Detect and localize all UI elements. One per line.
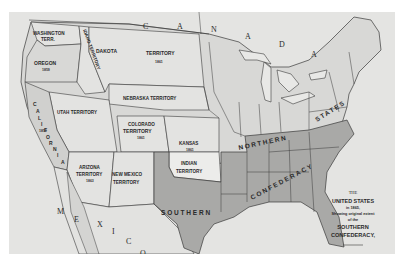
label-colorado: COLORADO: [128, 122, 155, 127]
label-dakota-year: 1861: [155, 60, 163, 64]
title-united-states: UNITED STATES: [332, 198, 374, 204]
label-washington-terr: TERR.: [41, 37, 55, 42]
label-kansas-year: 1861: [186, 148, 194, 152]
label-mexico-e: E: [74, 215, 79, 224]
label-mexico-o: O: [140, 249, 146, 254]
label-arizona-year: 1863: [86, 179, 94, 183]
label-dakota: DAKOTA: [96, 48, 117, 54]
label-mexico-m: M: [57, 207, 64, 216]
svg-text:A: A: [36, 108, 40, 114]
label-canada-a: A: [177, 22, 183, 31]
title-year: in 1865,: [346, 206, 360, 210]
label-mexico-c: C: [126, 237, 131, 246]
label-indian-territory: TERRITORY: [176, 169, 202, 174]
label-indian: INDIAN: [181, 161, 198, 166]
label-canada-c: C: [143, 22, 148, 31]
title-southern: SOUTHERN: [337, 224, 368, 230]
label-new-mexico-territory: TERRITORY: [113, 180, 139, 185]
label-canada-a2: A: [245, 32, 251, 41]
label-nebraska: NEBRASKA TERRITORY: [123, 96, 176, 101]
historical-map: C A N A D A M E X I C O WASHINGTON TERR.…: [9, 12, 395, 254]
svg-text:1850: 1850: [39, 129, 47, 133]
label-mexico-i: I: [112, 227, 115, 236]
label-mexico-x: X: [97, 220, 103, 229]
title-the: THE: [349, 190, 358, 195]
label-southern: SOUTHERN: [161, 209, 212, 216]
label-canada-d: D: [279, 40, 285, 49]
map-canvas: C A N A D A M E X I C O WASHINGTON TERR.…: [9, 12, 395, 254]
label-utah: UTAH TERRITORY: [57, 110, 97, 115]
label-oregon-year: 1859: [42, 68, 50, 72]
label-arizona-territory: TERRITORY: [76, 172, 102, 177]
label-colorado-year: 1861: [137, 136, 145, 140]
title-of-the: of the: [348, 218, 358, 222]
label-colorado-territory: TERRITORY: [123, 128, 152, 134]
label-washington: WASHINGTON: [33, 31, 65, 36]
region-dakota: [89, 27, 204, 92]
title-showing: Showing original extent: [332, 212, 376, 216]
label-canada-n: N: [211, 25, 217, 34]
svg-text:C: C: [33, 101, 37, 107]
title-confederacy: CONFEDERACY,: [331, 232, 376, 238]
label-canada-a3: A: [311, 50, 317, 59]
label-oregon: OREGON: [34, 60, 57, 66]
region-kansas: [164, 116, 219, 152]
label-arizona: ARIZONA: [79, 165, 101, 170]
label-kansas: KANSAS: [179, 141, 198, 146]
label-new-mexico: NEW MEXICO: [112, 172, 143, 177]
svg-text:A: A: [61, 159, 65, 165]
label-dakota-territory: TERRITORY: [146, 50, 175, 56]
